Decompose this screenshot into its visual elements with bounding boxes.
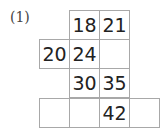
grid-cell-r2-c1: 20 [39, 39, 70, 69]
grid-cell-r4-c4-blank[interactable] [129, 98, 160, 128]
grid-cell-r2-c3-blank[interactable] [99, 39, 130, 69]
problem-label: (1) [10, 9, 30, 25]
grid-cell-r1-c2: 18 [69, 10, 100, 40]
grid-cell-r2-c2: 24 [69, 39, 100, 69]
grid-cell-r4-c1-blank[interactable] [39, 98, 70, 128]
grid-cell-r4-c3: 42 [99, 98, 130, 128]
grid-cell-r3-c3: 35 [99, 68, 130, 98]
grid-cell-r4-c2-blank[interactable] [69, 98, 100, 128]
grid-cell-r1-c3: 21 [99, 10, 130, 40]
grid-cell-r3-c2: 30 [69, 68, 100, 98]
